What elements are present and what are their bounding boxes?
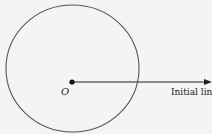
pole-point — [69, 79, 74, 84]
pole-label: O — [61, 86, 69, 97]
arrowhead-icon — [204, 79, 212, 85]
initial-line-label: Initial lin — [171, 87, 212, 97]
polar-diagram: O Initial lin — [0, 0, 212, 134]
circle — [6, 5, 139, 132]
